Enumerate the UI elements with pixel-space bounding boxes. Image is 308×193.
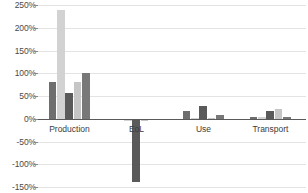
- bar: [65, 93, 73, 119]
- y-tick-label: 0%: [2, 115, 36, 124]
- category-label-eol: EoL: [129, 125, 144, 134]
- bar: [49, 82, 57, 118]
- bar: [266, 111, 274, 119]
- bar: [57, 10, 65, 118]
- category-label-use: Use: [196, 125, 211, 134]
- y-tick-label: 150%: [2, 46, 36, 55]
- gridline: [38, 187, 306, 188]
- y-tick-label: -100%: [2, 160, 36, 169]
- y-tick-label: 100%: [2, 69, 36, 78]
- bar: [199, 106, 207, 119]
- y-tick-label: 200%: [2, 24, 36, 33]
- category-label-transport: Transport: [252, 125, 288, 134]
- bar: [275, 109, 283, 119]
- y-tick-label: 250%: [2, 1, 36, 10]
- bar: [82, 73, 90, 119]
- zero-axis-line: [38, 119, 306, 120]
- y-tick-label: -150%: [2, 183, 36, 192]
- bars-layer: [38, 5, 306, 187]
- y-tick-mark: [34, 187, 38, 188]
- bar: [74, 82, 82, 118]
- y-axis: 250%200%150%100%50%0%-50%-100%-150%: [0, 0, 36, 193]
- y-tick-label: 50%: [2, 92, 36, 101]
- category-label-production: Production: [49, 125, 90, 134]
- bar: [183, 111, 191, 119]
- bar-chart: 250%200%150%100%50%0%-50%-100%-150% Prod…: [0, 0, 308, 193]
- plot-area: [38, 5, 306, 187]
- y-tick-label: -50%: [2, 137, 36, 146]
